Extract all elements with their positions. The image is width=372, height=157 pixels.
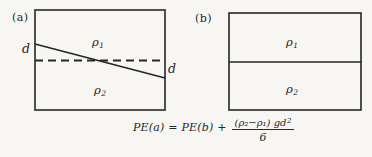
panel-a-label: (a)	[12, 12, 29, 23]
rho-subscript: 1	[293, 41, 298, 50]
rho-symbol: ρ	[286, 35, 293, 49]
panel-a-upper-density-label: ρ1	[92, 37, 104, 50]
equation-denominator: 6	[260, 130, 267, 144]
textbook-figure: (a) ρ1 ρ2 d d (b) ρ1 ρ2 PE(a) = PE(b) + …	[0, 0, 372, 157]
panel-b-upper-density-label: ρ1	[286, 37, 298, 50]
potential-energy-equation: PE(a) = PE(b) + (ρ₂−ρ₁) gd2 6	[133, 117, 294, 144]
equation-lhs: PE(a) = PE(b) +	[133, 121, 227, 134]
d-label-right: d	[168, 63, 176, 76]
numerator-exponent: 2	[287, 117, 291, 125]
d-label-left: d	[22, 43, 30, 56]
panel-b-lower-density-label: ρ2	[286, 84, 298, 97]
rho-symbol: ρ	[286, 82, 293, 96]
rho-symbol: ρ	[94, 83, 101, 97]
rho-subscript: 2	[101, 89, 106, 98]
rho-symbol: ρ	[92, 35, 99, 49]
panel-b-label: (b)	[195, 13, 212, 24]
rho-subscript: 1	[99, 41, 104, 50]
equation-fraction: (ρ₂−ρ₁) gd2 6	[232, 117, 295, 144]
rho-subscript: 2	[293, 88, 298, 97]
panel-a-lower-density-label: ρ2	[94, 85, 106, 98]
numerator-text: (ρ₂−ρ₁) gd	[235, 117, 287, 128]
equation-numerator: (ρ₂−ρ₁) gd2	[232, 117, 295, 129]
